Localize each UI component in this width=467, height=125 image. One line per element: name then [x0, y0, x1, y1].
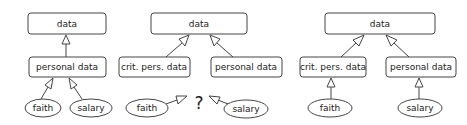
left-salary-label: salary [77, 103, 105, 113]
middle-unknown-label: ? [194, 93, 203, 113]
left-personal-label: personal data [36, 62, 98, 72]
left-data-label: data [57, 19, 77, 29]
right-arrowhead-icon [415, 78, 423, 87]
middle-arrowhead-icon [209, 96, 220, 104]
right-crit-label: crit. pers. data [300, 62, 366, 72]
middle-faith-label: faith [137, 103, 157, 113]
left-edge-salary-personal [74, 87, 82, 99]
right-faith-label: faith [320, 103, 340, 113]
left-arrowhead-icon [45, 78, 53, 89]
left-diagram: data personal data faith salary [25, 13, 112, 117]
left-faith-label: faith [33, 103, 53, 113]
right-diagram: data crit. pers. data personal data fait… [300, 13, 456, 117]
middle-personal-label: personal data [215, 62, 277, 72]
middle-crit-label: crit. pers. data [121, 62, 187, 72]
right-edge-personal-data [394, 43, 409, 57]
right-data-label: data [370, 19, 390, 29]
right-arrowhead-icon [327, 78, 335, 87]
right-salary-label: salary [406, 103, 434, 113]
left-arrowhead-icon [69, 78, 77, 89]
left-arrowhead-icon [62, 35, 70, 44]
middle-edge-salary-unknown [218, 100, 228, 104]
diagram-canvas: data personal data faith salary data cri… [0, 0, 467, 125]
middle-edge-faith-unknown [166, 100, 177, 104]
middle-edge-personal-data [217, 43, 233, 57]
right-edge-crit-data [341, 43, 356, 57]
left-edge-faith-personal [41, 87, 48, 99]
middle-data-label: data [189, 19, 209, 29]
middle-edge-crit-data [166, 43, 182, 57]
middle-diagram: data crit. pers. data personal data fait… [119, 13, 282, 118]
middle-salary-label: salary [232, 104, 260, 114]
right-personal-label: personal data [390, 62, 452, 72]
middle-arrowhead-icon [176, 96, 187, 104]
